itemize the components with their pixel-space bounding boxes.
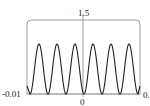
plot-canvas — [0, 0, 150, 106]
y-tick-label-max: 1.5 — [78, 9, 89, 18]
x-tick-label-zero: 0 — [80, 98, 85, 106]
x-tick-label-min: -0.01 — [2, 90, 21, 99]
x-tick-label-max: 0. — [143, 91, 150, 100]
data-curve — [27, 44, 140, 94]
